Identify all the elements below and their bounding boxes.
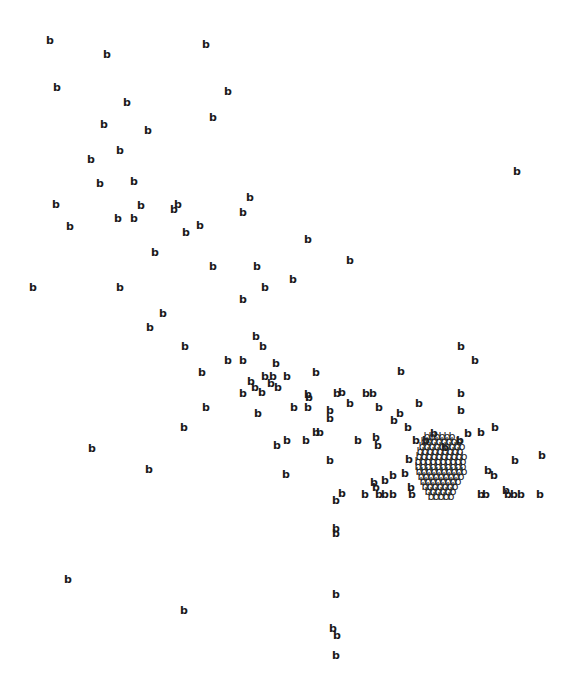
data-point-marker: b (64, 574, 72, 585)
data-point-marker: b (103, 49, 111, 60)
data-point-marker: b (253, 261, 261, 272)
data-point-marker: b (441, 466, 448, 477)
data-point-marker: b (446, 436, 453, 447)
data-point-marker: b (447, 446, 454, 457)
data-point-marker: b (202, 39, 210, 50)
data-point-marker: b (332, 650, 340, 661)
data-point-marker: b (444, 441, 451, 452)
data-point-marker: b (436, 466, 443, 477)
data-point-marker: b (267, 378, 275, 389)
data-point-marker: b (438, 471, 445, 482)
data-point-marker: b (304, 402, 312, 413)
data-point-marker: b (445, 461, 452, 472)
data-point-marker: b (428, 491, 435, 502)
data-point-marker: b (421, 451, 428, 462)
data-point-marker: b (375, 402, 383, 413)
data-point-marker: b (332, 523, 340, 534)
data-point-marker: b (460, 456, 467, 467)
data-point-marker: b (258, 387, 266, 398)
data-point-marker: b (449, 441, 456, 452)
data-point-marker: b (100, 119, 108, 130)
data-point-marker: b (304, 234, 312, 245)
data-point-marker: b (407, 482, 415, 493)
data-point-marker: b (431, 436, 438, 447)
data-point-marker: b (254, 408, 262, 419)
data-point-marker: b (418, 471, 425, 482)
data-point-marker: b (146, 322, 154, 333)
data-point-marker: b (502, 485, 510, 496)
data-point-marker: b (424, 441, 431, 452)
data-point-marker: b (452, 481, 459, 492)
data-point-marker: b (426, 451, 433, 462)
data-point-marker: b (430, 461, 437, 472)
data-point-marker: b (441, 451, 448, 462)
data-point-marker: b (432, 446, 439, 457)
data-point-marker: b (116, 145, 124, 156)
data-point-marker: b (372, 432, 380, 443)
data-point-marker: b (445, 476, 452, 487)
data-point-marker: b (484, 465, 492, 476)
data-point-marker: b (422, 446, 429, 457)
data-point-marker: b (511, 455, 519, 466)
data-point-marker: b (261, 371, 269, 382)
data-point-marker: b (326, 413, 334, 424)
data-point-marker: b (536, 489, 544, 500)
data-point-marker: b (326, 455, 334, 466)
data-point-marker: b (312, 367, 320, 378)
data-point-marker: b (445, 456, 452, 467)
data-point-marker: b (477, 489, 485, 500)
data-point-marker: b (455, 456, 462, 467)
data-point-marker: b (445, 486, 452, 497)
data-point-marker: b (372, 482, 380, 493)
data-point-marker: b (454, 441, 461, 452)
data-point-marker: b (443, 471, 450, 482)
data-point-marker: b (198, 367, 206, 378)
data-point-marker: b (435, 486, 442, 497)
data-point-marker: b (425, 476, 432, 487)
data-point-marker: b (482, 489, 490, 500)
chart-title: ········· (0, 0, 571, 8)
data-point-marker: b (429, 431, 436, 442)
data-point-marker: b (261, 282, 269, 293)
data-point-marker: b (448, 471, 455, 482)
data-point-marker: b (538, 450, 546, 461)
data-point-marker: b (442, 481, 449, 492)
data-point-marker: b (239, 388, 247, 399)
data-point-marker: b (456, 435, 464, 446)
data-point-marker: b (419, 441, 426, 452)
data-point-marker: b (389, 489, 397, 500)
data-point-marker: b (426, 466, 433, 477)
data-point-marker: b (252, 331, 260, 342)
data-point-marker: b (433, 471, 440, 482)
data-point-marker: b (370, 477, 378, 488)
data-point-marker: b (283, 371, 291, 382)
data-point-marker: b (425, 461, 432, 472)
data-point-marker: b (239, 294, 247, 305)
data-point-marker: b (438, 491, 445, 502)
data-point-marker: b (415, 456, 422, 467)
data-point-marker: b (130, 213, 138, 224)
data-point-marker: b (491, 422, 499, 433)
data-point-marker: b (381, 475, 389, 486)
data-point-marker: b (430, 476, 437, 487)
data-point-marker: b (471, 355, 479, 366)
data-point-marker: b (246, 192, 254, 203)
data-point-marker: b (405, 454, 413, 465)
data-point-marker: b (333, 388, 341, 399)
data-point-marker: b (432, 481, 439, 492)
data-point-marker: b (346, 398, 354, 409)
data-point-marker: b (182, 227, 190, 238)
data-point-marker: b (96, 178, 104, 189)
data-point-marker: b (513, 166, 521, 177)
data-point-marker: b (461, 451, 468, 462)
data-point-marker: b (180, 422, 188, 433)
data-point-marker: b (123, 97, 131, 108)
data-point-marker: b (362, 388, 370, 399)
data-point-marker: b (302, 435, 310, 446)
data-point-marker: b (439, 431, 446, 442)
data-point-marker: b (174, 199, 182, 210)
data-point-marker: b (224, 86, 232, 97)
data-point-marker: b (451, 436, 458, 447)
data-point-marker: b (460, 461, 467, 472)
data-point-marker: b (239, 355, 247, 366)
